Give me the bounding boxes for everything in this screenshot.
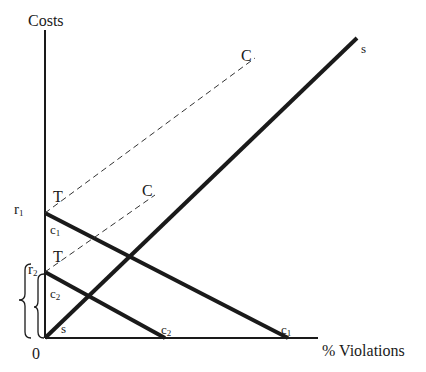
label-T-upper: T: [53, 189, 63, 205]
x-axis-label: % Violations: [322, 343, 405, 359]
label-c1-yaxis: c1: [50, 223, 60, 238]
label-c2-yaxis: c2: [50, 287, 60, 302]
y-axis-label: Costs: [28, 13, 64, 29]
origin-label: 0: [32, 346, 40, 362]
line-c1: [45, 213, 288, 338]
label-r2: r2: [28, 262, 38, 278]
label-C-lower: C: [142, 183, 153, 199]
label-c2-axis: c2: [161, 323, 171, 338]
label-s-bottom: s: [61, 322, 66, 335]
brace-r2: [34, 274, 44, 338]
label-r1: r1: [14, 202, 24, 218]
label-s-top: s: [361, 42, 366, 55]
label-T-lower: T: [53, 249, 63, 265]
label-c1-axis: c1: [281, 323, 291, 338]
label-C-upper: C: [241, 48, 252, 64]
